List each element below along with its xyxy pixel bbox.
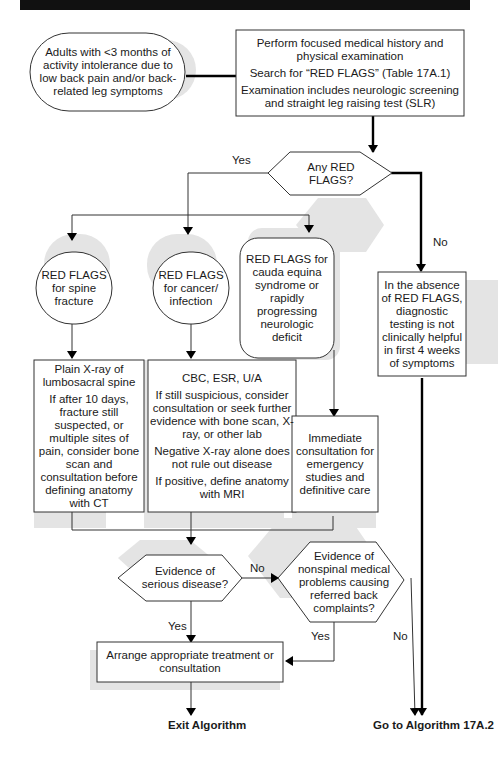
red-flags-fracture-text: RED FLAGS for spine fracture [40,269,108,308]
red-flags-cauda-text: RED FLAGS for cauda equina syndrome or r… [244,253,330,344]
cauda-workup-node: Immediate consultation for emergency stu… [294,418,376,510]
cancer-workup-line-3: Negative X-ray alone does not rule out d… [150,445,294,471]
label-yes-nonspinal: Yes [311,630,330,642]
label-yes-serious: Yes [168,620,187,632]
decision-red-flags-text: Any RED FLAGS? [292,161,370,187]
exam-line-3: Examination includes neurologic screenin… [238,84,462,110]
decision-nonspinal-text: Evidence of nonspinal medical problems c… [296,550,392,615]
label-no-serious: No [250,562,265,574]
red-flags-fracture-node: RED FLAGS for spine fracture [40,254,108,322]
label-yes-red-flags: Yes [232,154,251,166]
treatment-node: Arrange appropriate treatment or consult… [99,644,281,680]
exam-line-2: Search for “RED FLAGS” (Table 17A.1) [250,67,451,80]
decision-nonspinal: Evidence of nonspinal medical problems c… [296,544,392,620]
cancer-workup-line-4: If positive, define anatomy with MRI [150,475,294,501]
goto-algorithm-label: Go to Algorithm 17A.2 [373,719,494,731]
fracture-workup-line-1: Plain X-ray of lumbosacral spine [36,363,142,389]
start-text: Adults with <3 months of activity intole… [38,46,178,98]
fracture-workup-node: Plain X-ray of lumbosacral spine If afte… [36,362,142,510]
cauda-workup-text: Immediate consultation for emergency stu… [294,432,376,497]
red-flags-cancer-text: RED FLAGS for cancer/ infection [157,269,225,308]
start-node: Adults with <3 months of activity intole… [38,36,178,108]
exam-node: Perform focused medical history and phys… [238,32,462,114]
red-flags-cancer-node: RED FLAGS for cancer/ infection [157,254,225,322]
fracture-workup-line-2: If after 10 days, fracture still suspect… [36,393,142,510]
treatment-text: Arrange appropriate treatment or consult… [99,649,281,675]
label-no-nonspinal: No [393,630,408,642]
red-flags-cauda-node: RED FLAGS for cauda equina syndrome or r… [244,240,330,356]
decision-serious-text: Evidence of serious disease? [140,565,230,591]
no-red-flags-text: In the absence of RED FLAGS, diagnostic … [380,279,464,370]
exam-line-1: Perform focused medical history and phys… [238,37,462,63]
no-red-flags-node: In the absence of RED FLAGS, diagnostic … [380,274,464,374]
exit-algorithm-label: Exit Algorithm [168,719,246,731]
decision-serious-disease: Evidence of serious disease? [140,558,230,598]
decision-red-flags: Any RED FLAGS? [292,154,370,194]
cancer-workup-line-1: CBC, ESR, U/A [182,372,262,385]
label-no-red-flags: No [433,236,448,248]
cancer-workup-line-2: If still suspicious, consider consultati… [150,389,294,441]
cancer-workup-node: CBC, ESR, U/A If still suspicious, consi… [150,362,294,510]
